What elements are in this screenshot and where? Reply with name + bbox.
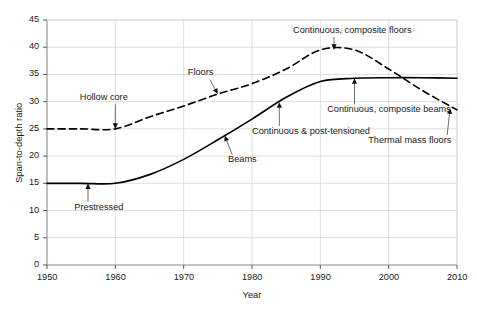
x-tick-label: 1970 <box>174 273 194 282</box>
annotation-label: Beams <box>228 155 257 164</box>
annotation-label: Continuous & post-tensioned <box>252 127 370 136</box>
y-tick-label: 45 <box>29 15 39 24</box>
annotation-label: Continuous, composite floors <box>293 26 411 35</box>
chart-container: Hollow coreFloorsContinuous, composite f… <box>0 0 477 312</box>
y-tick-label: 35 <box>29 69 39 78</box>
y-tick-label: 30 <box>29 97 39 106</box>
y-axis-title: Span-to-depth ratio <box>14 102 23 182</box>
annotation-label: Floors <box>188 68 214 77</box>
annotation-label: Hollow core <box>80 93 128 102</box>
x-axis-title: Year <box>243 290 262 299</box>
x-tick-label: 2000 <box>379 273 399 282</box>
annotation-label: Thermal mass floors <box>368 136 451 145</box>
x-tick-label: 2010 <box>447 273 467 282</box>
x-tick-label: 1990 <box>310 273 330 282</box>
y-tick-label: 40 <box>29 42 39 51</box>
annotation-leader-line <box>447 111 450 135</box>
annotation-leader-line <box>226 138 232 154</box>
y-tick-label: 5 <box>34 233 39 242</box>
y-tick-label: 25 <box>29 124 39 133</box>
annotation-label: Continuous, composite beams <box>327 105 451 114</box>
x-tick-label: 1950 <box>37 273 57 282</box>
y-tick-label: 10 <box>29 206 39 215</box>
x-tick-label: 1980 <box>242 273 262 282</box>
y-tick-label: 20 <box>29 151 39 160</box>
y-tick-label: 0 <box>34 260 39 269</box>
annotation-label: Prestressed <box>74 203 123 212</box>
x-tick-label: 1960 <box>105 273 125 282</box>
y-tick-label: 15 <box>29 178 39 187</box>
